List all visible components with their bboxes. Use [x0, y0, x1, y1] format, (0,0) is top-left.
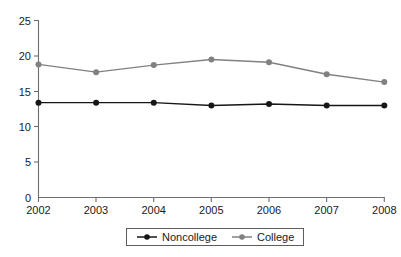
data-point[interactable]: [266, 59, 272, 65]
x-axis-tick-labels: 2002 2003 2004 2005 2006 2007 2008: [26, 204, 396, 216]
axis-group: [34, 20, 385, 202]
legend-item-college[interactable]: College: [231, 232, 294, 243]
y-tick-label: 5: [25, 156, 31, 168]
x-tick-label: 2003: [84, 204, 108, 216]
line-chart: 25 20 15 10 5 0 2002 2003 2004 2005 2006…: [0, 0, 401, 257]
x-tick-label: 2007: [314, 204, 338, 216]
x-tick-marks: [39, 198, 385, 203]
legend-marker-noncollege-icon: [136, 232, 158, 242]
legend-label-college: College: [257, 232, 294, 243]
x-tick-label: 2004: [141, 204, 165, 216]
series-path-college: [39, 59, 385, 82]
legend-item-noncollege[interactable]: Noncollege: [136, 232, 217, 243]
y-tick-label: 15: [19, 86, 31, 98]
data-point[interactable]: [208, 56, 214, 62]
data-point[interactable]: [93, 100, 99, 106]
y-axis-tick-labels: 25 20 15 10 5 0: [19, 15, 31, 204]
legend-marker-college-icon: [231, 232, 253, 242]
y-tick-label: 0: [25, 192, 31, 204]
legend-label-noncollege: Noncollege: [162, 232, 217, 243]
y-tick-marks: [34, 21, 39, 163]
data-point[interactable]: [93, 69, 99, 75]
axis-lines: [39, 20, 386, 198]
x-tick-label: 2006: [257, 204, 281, 216]
data-point[interactable]: [381, 102, 387, 108]
x-tick-label: 2008: [372, 204, 396, 216]
data-point[interactable]: [324, 71, 330, 77]
data-point[interactable]: [381, 79, 387, 85]
y-tick-label: 10: [19, 121, 31, 133]
data-point[interactable]: [36, 100, 42, 106]
y-tick-label: 25: [19, 15, 31, 27]
x-tick-label: 2002: [26, 204, 50, 216]
data-point[interactable]: [151, 100, 157, 106]
data-point[interactable]: [266, 101, 272, 107]
y-tick-label: 20: [19, 50, 31, 62]
chart-legend: Noncollege College: [126, 228, 304, 246]
data-point[interactable]: [151, 62, 157, 68]
data-point[interactable]: [324, 102, 330, 108]
data-point[interactable]: [36, 61, 42, 67]
series-noncollege: [36, 100, 388, 109]
x-tick-label: 2005: [199, 204, 223, 216]
data-point[interactable]: [208, 102, 214, 108]
chart-canvas: 25 20 15 10 5 0 2002 2003 2004 2005 2006…: [0, 0, 401, 257]
series-college: [36, 56, 388, 85]
